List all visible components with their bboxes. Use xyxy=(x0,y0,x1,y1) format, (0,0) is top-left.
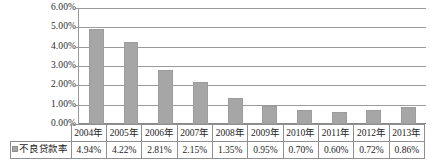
bar-slot xyxy=(252,8,287,124)
bar xyxy=(262,106,277,124)
bar xyxy=(124,42,139,124)
column-header-cell: 2013年 xyxy=(389,125,424,142)
y-axis-tick-label: 2.00% xyxy=(51,81,76,91)
bar xyxy=(158,70,173,124)
bar-slot xyxy=(148,8,183,124)
bar xyxy=(401,107,416,124)
column-header-cell: 2007年 xyxy=(177,125,212,142)
data-cell: 2.15% xyxy=(177,142,212,159)
data-cell: 0.72% xyxy=(354,142,389,159)
bar-slot xyxy=(357,8,392,124)
plot-area xyxy=(78,8,426,124)
data-cell: 0.70% xyxy=(283,142,318,159)
table-corner-cell xyxy=(11,125,72,142)
data-table: 2004年2005年2006年2007年2008年2009年2010年2011年… xyxy=(10,124,425,159)
y-axis-tick-label: 5.00% xyxy=(51,23,76,33)
bar-slot xyxy=(322,8,357,124)
bar xyxy=(332,112,347,124)
bar xyxy=(297,110,312,124)
bar-slot xyxy=(183,8,218,124)
bar xyxy=(228,98,243,124)
y-axis-tick-label: 3.00% xyxy=(51,61,76,71)
series-name-label: 不良贷款率 xyxy=(19,145,68,155)
bar-slot xyxy=(79,8,114,124)
bar-slot xyxy=(391,8,426,124)
column-header-cell: 2011年 xyxy=(318,125,353,142)
data-cell: 0.86% xyxy=(389,142,424,159)
column-header-cell: 2006年 xyxy=(142,125,177,142)
data-cell: 0.95% xyxy=(248,142,283,159)
data-cell: 2.81% xyxy=(142,142,177,159)
y-axis-tick-label: 4.00% xyxy=(51,42,76,52)
column-header-cell: 2010年 xyxy=(283,125,318,142)
data-cell: 4.22% xyxy=(107,142,142,159)
bars-layer xyxy=(79,8,426,124)
legend-swatch-icon xyxy=(12,146,18,152)
table-header-row: 2004年2005年2006年2007年2008年2009年2010年2011年… xyxy=(11,125,425,142)
bar-slot xyxy=(218,8,253,124)
bar-slot xyxy=(287,8,322,124)
table-row: 不良贷款率 4.94%4.22%2.81%2.15%1.35%0.95%0.70… xyxy=(11,142,425,159)
column-header-cell: 2009年 xyxy=(248,125,283,142)
column-header-cell: 2012年 xyxy=(354,125,389,142)
data-cell: 4.94% xyxy=(71,142,106,159)
data-cell: 1.35% xyxy=(213,142,248,159)
series-legend-cell: 不良贷款率 xyxy=(11,142,72,159)
y-axis-tick-labels: 0.00%1.00%2.00%3.00%4.00%5.00%6.00% xyxy=(28,8,76,124)
plot-region: 0.00%1.00%2.00%3.00%4.00%5.00%6.00% xyxy=(0,8,430,132)
column-header-cell: 2005年 xyxy=(107,125,142,142)
data-cell: 0.60% xyxy=(318,142,353,159)
bar-slot xyxy=(114,8,149,124)
y-axis-tick-label: 1.00% xyxy=(51,100,76,110)
bar xyxy=(193,82,208,124)
bar-chart-with-data-table: 0.00%1.00%2.00%3.00%4.00%5.00%6.00% 2004… xyxy=(0,0,430,166)
bar xyxy=(366,110,381,124)
column-header-cell: 2008年 xyxy=(213,125,248,142)
y-axis-tick-label: 6.00% xyxy=(51,3,76,13)
column-header-cell: 2004年 xyxy=(71,125,106,142)
bar xyxy=(89,29,104,125)
